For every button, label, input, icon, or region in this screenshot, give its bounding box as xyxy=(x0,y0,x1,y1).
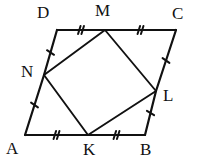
vertex-label-D: D xyxy=(37,4,49,21)
segment-ML xyxy=(105,30,156,91)
vertex-label-M: M xyxy=(95,2,110,19)
tick-mark xyxy=(54,131,57,139)
tick-mark xyxy=(78,26,81,34)
vertex-label-L: L xyxy=(163,87,173,104)
vertex-label-K: K xyxy=(83,141,95,158)
geometry-canvas xyxy=(0,0,207,166)
segment-KN xyxy=(44,75,88,135)
inner-quadrilateral xyxy=(44,30,156,135)
vertex-label-B: B xyxy=(140,141,151,158)
outer-parallelogram xyxy=(25,30,176,135)
vertex-label-C: C xyxy=(172,5,183,22)
tick-mark xyxy=(117,131,120,139)
vertex-label-N: N xyxy=(21,63,33,80)
tick-mark xyxy=(114,131,117,139)
vertex-label-A: A xyxy=(6,140,18,157)
tick-mark xyxy=(138,26,141,34)
tick-mark xyxy=(57,131,60,139)
tick-mark xyxy=(81,26,84,34)
geometry-figure: ABCDKLMN xyxy=(0,0,207,166)
tick-mark xyxy=(141,26,144,34)
segment-NM xyxy=(44,30,105,75)
